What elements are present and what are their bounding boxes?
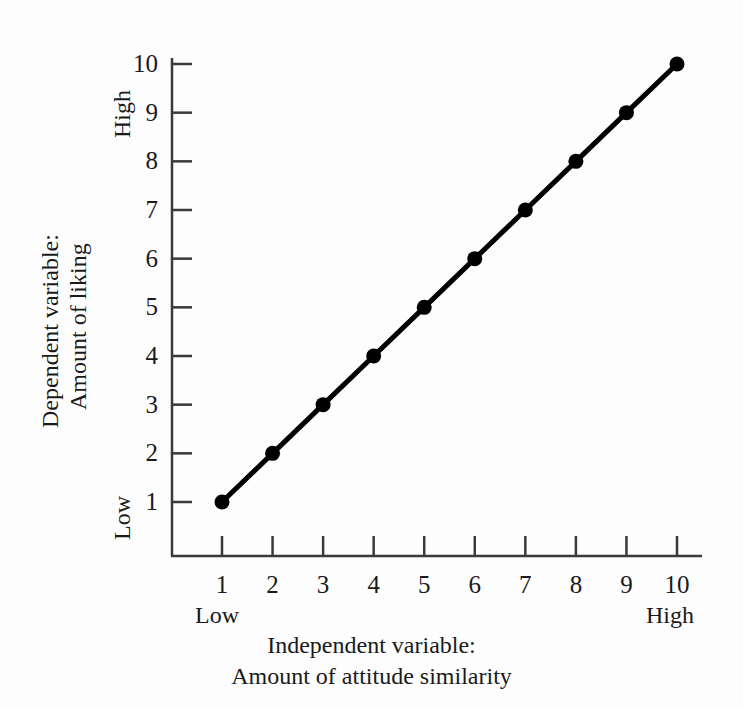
data-point-marker bbox=[518, 203, 533, 218]
data-point-marker bbox=[215, 495, 230, 510]
chart-figure: 12345678910 12345678910 Dependent variab… bbox=[0, 0, 743, 708]
x-axis-tick-label: 10 bbox=[647, 572, 707, 597]
y-axis-tick-label: 2 bbox=[110, 440, 158, 465]
y-axis-ticks bbox=[172, 64, 192, 502]
x-axis-high-label: High bbox=[646, 603, 694, 627]
y-axis-tick-label: 5 bbox=[110, 294, 158, 319]
y-axis-tick-label: 4 bbox=[110, 343, 158, 368]
data-point-marker bbox=[568, 154, 583, 169]
x-axis-low-label: Low bbox=[195, 603, 239, 627]
data-point-marker bbox=[467, 251, 482, 266]
y-axis-tick-label: 7 bbox=[110, 197, 158, 222]
x-axis-title-line1: Independent variable: bbox=[0, 630, 743, 660]
y-axis-title-line2: Amount of liking bbox=[66, 243, 90, 410]
data-point-marker bbox=[619, 105, 634, 120]
data-point-marker bbox=[670, 57, 685, 72]
x-axis-title-line2: Amount of attitude similarity bbox=[0, 661, 743, 691]
y-axis-low-label: Low bbox=[110, 496, 134, 540]
y-axis-tick-label: 3 bbox=[110, 392, 158, 417]
data-point-marker bbox=[316, 397, 331, 412]
y-axis-title-line1: Dependent variable: bbox=[38, 234, 62, 428]
y-axis-tick-label: 10 bbox=[110, 51, 158, 76]
data-series-line bbox=[222, 64, 677, 502]
y-axis-tick-label: 8 bbox=[110, 148, 158, 173]
y-axis-high-label: High bbox=[110, 90, 134, 138]
data-point-marker bbox=[366, 349, 381, 364]
y-axis-tick-label: 6 bbox=[110, 246, 158, 271]
x-axis-ticks bbox=[222, 536, 677, 556]
data-point-marker bbox=[265, 446, 280, 461]
data-point-marker bbox=[417, 300, 432, 315]
